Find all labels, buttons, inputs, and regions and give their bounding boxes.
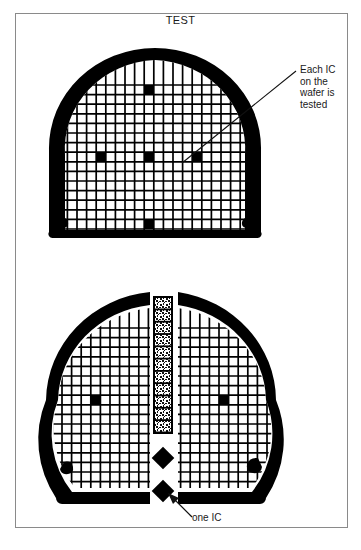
top-wafer — [48, 48, 261, 240]
annotation-each-ic-tested: Each IC on the wafer is tested — [300, 64, 352, 110]
upper-diamond-die — [152, 447, 175, 470]
loose-dies — [152, 447, 175, 503]
annotation-one-ic: one IC — [192, 512, 252, 524]
bottom-wafer-left-half — [38, 292, 152, 504]
bottom-left-die — [91, 395, 101, 405]
die-strip — [153, 296, 173, 434]
bottom-right-die — [219, 395, 229, 405]
bottom-wafer-right-half — [176, 292, 288, 504]
die-strip-cells — [155, 298, 171, 432]
figure-canvas: TEST — [0, 0, 361, 550]
